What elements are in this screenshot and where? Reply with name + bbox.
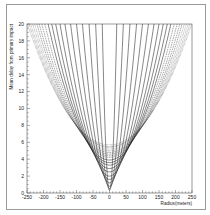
delay-curve — [56, 24, 164, 165]
y-tick-label: 4 — [21, 156, 24, 162]
delay-curve — [31, 24, 189, 147]
delay-curve — [45, 24, 174, 158]
y-tick-label: 14 — [18, 72, 24, 78]
y-tick-label: 6 — [21, 139, 24, 145]
x-tick-label: 100 — [138, 194, 147, 200]
x-tick-label: 150 — [155, 194, 164, 200]
y-axis: 02468101214161820 — [18, 21, 30, 196]
x-tick-label: -50 — [89, 194, 96, 200]
delay-curve — [77, 24, 143, 179]
y-tick-label: 12 — [18, 88, 24, 94]
delay-curve — [39, 24, 180, 154]
delay-curve — [42, 24, 177, 156]
y-tick-label: 20 — [18, 21, 24, 27]
y-tick-label: 8 — [21, 122, 24, 128]
delay-curve — [29, 24, 190, 147]
x-tick-label: 0 — [108, 194, 111, 200]
y-tick-label: 2 — [21, 173, 24, 179]
x-tick-label: 50 — [123, 194, 129, 200]
delay-curve — [96, 24, 124, 189]
delay-curve — [48, 24, 171, 160]
delay-curve — [35, 24, 185, 151]
y-tick-label: 18 — [18, 38, 24, 44]
x-axis-title: Radius(meters) — [161, 201, 193, 206]
delay-curve — [60, 24, 159, 169]
delay-curve — [71, 24, 149, 176]
x-tick-label: 200 — [171, 194, 180, 200]
x-tick-label: -200 — [38, 194, 48, 200]
x-axis: -250-200-150-100-50050100150200250 — [22, 190, 196, 200]
delay-curve — [89, 24, 130, 186]
y-tick-label: 0 — [21, 190, 24, 196]
delay-curve — [52, 24, 168, 163]
x-tick-label: -100 — [71, 194, 81, 200]
delay-curve — [27, 24, 191, 145]
delay-curves — [27, 24, 191, 190]
delay-curve — [37, 24, 182, 152]
plot-area — [27, 24, 192, 193]
delay-chart: -250-200-150-100-50050100150200250 02468… — [0, 0, 210, 215]
y-tick-label: 16 — [18, 55, 24, 61]
delay-curve — [65, 24, 154, 172]
x-tick-label: -150 — [55, 194, 65, 200]
y-tick-label: 10 — [18, 105, 24, 111]
y-axis-title: Mean delay from primary impact — [9, 23, 14, 89]
x-tick-label: 250 — [188, 194, 197, 200]
